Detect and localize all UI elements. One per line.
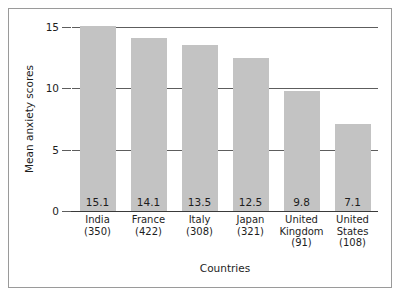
y-axis-tick-mark xyxy=(62,27,71,28)
bar-value-label: 9.8 xyxy=(284,196,320,208)
bar-value-label: 12.5 xyxy=(233,196,269,208)
bar-value-label: 14.1 xyxy=(131,196,167,208)
plot-area: 05101515.114.113.512.59.87.1 xyxy=(72,27,378,211)
x-axis-tick-label-line: States xyxy=(327,226,378,238)
axis-baseline xyxy=(62,211,378,212)
x-axis-tick-label: Italy(308) xyxy=(174,214,225,237)
y-axis-tick-label: 15 xyxy=(46,21,59,33)
x-axis-tick-label-line: Italy xyxy=(174,214,225,226)
x-axis-tick-label-line: United xyxy=(276,214,327,226)
x-axis-tick-label: Japan(321) xyxy=(225,214,276,237)
x-axis-tick-label: France(422) xyxy=(123,214,174,237)
x-axis-tick-label-line: Kingdom xyxy=(276,226,327,238)
y-axis-tick-mark xyxy=(62,211,71,212)
x-axis-tick-label: UnitedKingdom(91) xyxy=(276,214,327,249)
y-axis-tick-label: 10 xyxy=(46,82,59,94)
x-axis-tick-label-line: (91) xyxy=(276,237,327,249)
y-axis-label: Mean anxiety scores xyxy=(22,27,36,211)
x-axis-tick-label-line: France xyxy=(123,214,174,226)
x-axis-label: Countries xyxy=(72,262,378,274)
x-axis-tick-label: UnitedStates(108) xyxy=(327,214,378,249)
x-axis-tick-label-line: Japan xyxy=(225,214,276,226)
y-axis-tick-mark xyxy=(62,88,71,89)
x-axis-tick-label-line: (321) xyxy=(225,226,276,238)
chart-figure: Mean anxiety scores 05101515.114.113.512… xyxy=(0,0,402,300)
bar: 12.5 xyxy=(233,58,269,211)
gridline xyxy=(72,88,378,89)
bar: 7.1 xyxy=(335,124,371,211)
x-axis-tick-label-line: (308) xyxy=(174,226,225,238)
bar: 9.8 xyxy=(284,91,320,211)
bar: 15.1 xyxy=(80,26,116,211)
x-axis-tick-label: India(350) xyxy=(72,214,123,237)
bar: 14.1 xyxy=(131,38,167,211)
gridline xyxy=(72,27,378,28)
y-axis-tick-label: 5 xyxy=(52,144,59,156)
bar-value-label: 7.1 xyxy=(335,196,371,208)
x-axis-tick-label-line: India xyxy=(72,214,123,226)
gridline xyxy=(72,150,378,151)
bar-value-label: 15.1 xyxy=(80,196,116,208)
y-axis-tick-label: 0 xyxy=(52,205,59,217)
x-axis-tick-label-line: United xyxy=(327,214,378,226)
y-axis-tick-mark xyxy=(62,150,71,151)
bar: 13.5 xyxy=(182,45,218,211)
y-axis-label-container: Mean anxiety scores xyxy=(0,27,40,211)
bar-value-label: 13.5 xyxy=(182,196,218,208)
x-axis-tick-label-line: (108) xyxy=(327,237,378,249)
x-axis-tick-label-line: (422) xyxy=(123,226,174,238)
x-axis-tick-label-line: (350) xyxy=(72,226,123,238)
